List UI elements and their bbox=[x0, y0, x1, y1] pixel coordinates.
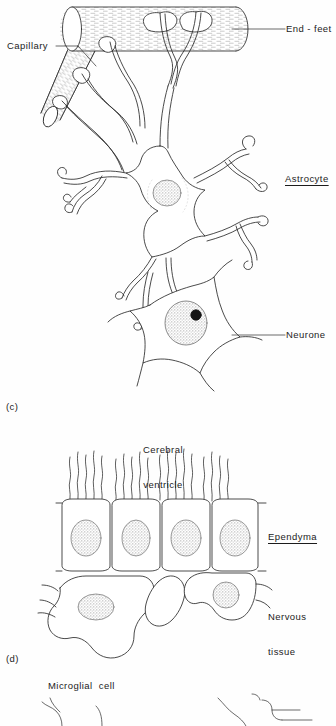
microglial-cell-processes bbox=[42, 694, 312, 726]
label-nervous-tissue-line2: tissue bbox=[268, 646, 307, 658]
label-cerebral-ventricle: Cerebral ventricle bbox=[125, 421, 201, 513]
panel-c-tag: (c) bbox=[6, 401, 18, 412]
figure-page: End - feet Capillary Astrocyte Neurone (… bbox=[0, 0, 336, 726]
panel-d-tag: (d) bbox=[6, 653, 19, 664]
label-end-feet: End - feet bbox=[286, 23, 332, 35]
label-nervous-tissue-line1: Nervous bbox=[268, 611, 307, 623]
label-capillary: Capillary bbox=[7, 40, 48, 52]
label-nervous-tissue: Nervous tissue bbox=[268, 588, 307, 680]
label-cerebral-ventricle-line2: ventricle bbox=[125, 479, 201, 491]
astrocyte-processes-left bbox=[58, 167, 127, 214]
astrocyte-cell-body bbox=[126, 146, 205, 257]
label-ependyma: Ependyma bbox=[268, 531, 317, 543]
label-astrocyte: Astrocyte bbox=[285, 173, 329, 185]
label-cerebral-ventricle-line1: Cerebral bbox=[125, 444, 201, 456]
label-neurone: Neurone bbox=[286, 329, 326, 341]
astrocyte-processes-right bbox=[194, 136, 268, 270]
nervous-tissue-cells bbox=[38, 573, 272, 658]
label-microglial-cell: Microglial cell bbox=[48, 680, 115, 692]
neurone-cell-body bbox=[108, 260, 262, 391]
